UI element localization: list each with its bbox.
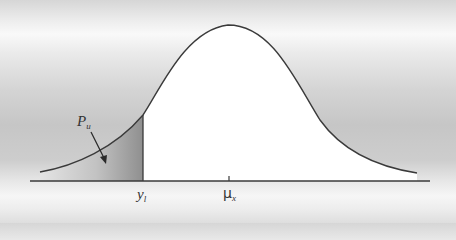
area-under-curve: [143, 25, 417, 181]
lower-limit-label-sub: l: [144, 194, 147, 204]
mean-label: μx: [223, 186, 236, 203]
mean-label-sub: x: [232, 193, 236, 203]
probability-label-sub: u: [86, 121, 91, 131]
probability-label: Pu: [77, 114, 91, 131]
mean-label-main: μ: [223, 185, 232, 201]
lower-limit-label-main: y: [137, 186, 144, 202]
lower-limit-label: yl: [137, 187, 146, 204]
lower-tail-shaded-region: [40, 115, 143, 181]
probability-label-main: P: [77, 113, 86, 129]
